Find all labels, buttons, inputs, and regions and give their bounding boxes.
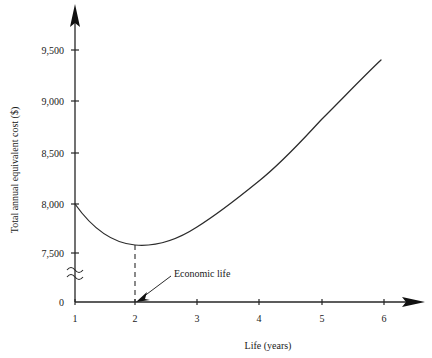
y-axis-title: Total annual equivalent cost ($) (9, 107, 21, 233)
x-tick-label-2: 2 (133, 313, 138, 324)
cost-curve (75, 60, 381, 245)
y-tick-label-8500: 8,500 (42, 148, 65, 159)
x-tick-label-1: 1 (73, 313, 78, 324)
x-tick-label-3: 3 (195, 313, 200, 324)
economic-life-leader-line (143, 276, 171, 297)
y-tick-label-7500: 7,500 (42, 248, 65, 259)
y-tick-label-9000: 9,000 (42, 96, 65, 107)
y-tick-label-9500: 9,500 (42, 45, 65, 56)
economic-life-cost-chart: 9,500 9,000 8,500 8,000 7,500 0 1 2 3 4 … (0, 0, 432, 358)
y-tick-label-0: 0 (59, 297, 64, 308)
x-tick-label-4: 4 (257, 313, 262, 324)
y-tick-label-8000: 8,000 (42, 199, 65, 210)
x-tick-label-6: 6 (382, 313, 387, 324)
chart-container: 9,500 9,000 8,500 8,000 7,500 0 1 2 3 4 … (0, 0, 432, 358)
x-axis-title: Life (years) (245, 340, 292, 352)
x-tick-label-5: 5 (320, 313, 325, 324)
economic-life-annotation: Economic life (174, 268, 231, 279)
